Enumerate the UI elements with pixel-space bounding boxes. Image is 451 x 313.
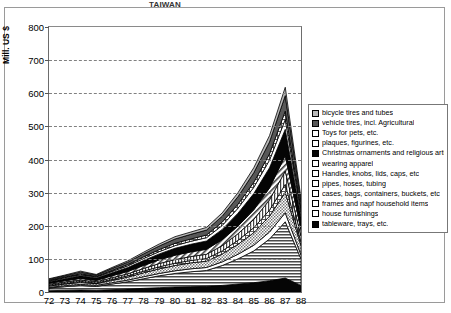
- legend-label: Christmas ornaments and religious articl…: [322, 149, 444, 157]
- plot-area: 0100200300400500600700800 72737475767778…: [48, 26, 302, 293]
- x-tick-label: 75: [91, 296, 102, 306]
- legend-label: house furnishings: [322, 210, 378, 218]
- legend-label: Handles, knobs, lids, caps, etc: [322, 170, 419, 178]
- legend-item: Toys for pets, etc.: [312, 128, 444, 138]
- legend-label: pipes, hoses, tubing: [322, 180, 386, 188]
- legend-item: frames and napf household items: [312, 199, 444, 209]
- x-tick-label: 87: [280, 296, 291, 306]
- gridline: [49, 60, 301, 61]
- x-tick-label: 74: [75, 296, 86, 306]
- legend-swatch: [312, 140, 319, 147]
- y-tick-label: 100: [28, 254, 44, 263]
- legend-swatch: [312, 170, 319, 177]
- legend-item: vehicle tires, incl. Agricultural: [312, 118, 444, 128]
- gridline: [49, 226, 301, 227]
- legend: bicycle tires and tubesvehicle tires, in…: [308, 104, 448, 233]
- legend-item: Christmas ornaments and religious articl…: [312, 148, 444, 158]
- legend-item: tableware, trays, etc.: [312, 219, 444, 229]
- legend-swatch: [312, 120, 319, 127]
- legend-swatch: [312, 190, 319, 197]
- x-tick-label: 72: [44, 296, 55, 306]
- legend-label: cases, bags, containers, buckets, etc: [322, 190, 440, 198]
- x-tick-label: 82: [201, 296, 212, 306]
- legend-swatch: [312, 130, 319, 137]
- y-tick-label: 200: [28, 221, 44, 230]
- y-tick-label: 700: [28, 56, 44, 65]
- x-tick-label: 77: [122, 296, 133, 306]
- y-tick-label: 300: [28, 188, 44, 197]
- legend-label: plaques, figurines, etc.: [322, 139, 394, 147]
- figure-frame: TAIWAN Mill. US $: [4, 7, 445, 303]
- chart-page: TAIWAN Mill. US $: [0, 0, 451, 313]
- y-tick-label: 800: [28, 23, 44, 32]
- legend-swatch: [312, 200, 319, 207]
- x-tick-label: 76: [107, 296, 118, 306]
- y-axis-label-text: Mill. US $: [1, 10, 11, 80]
- legend-swatch: [312, 110, 319, 117]
- legend-label: bicycle tires and tubes: [322, 109, 393, 117]
- legend-swatch: [312, 180, 319, 187]
- gridline: [49, 193, 301, 194]
- legend-swatch: [312, 210, 319, 217]
- legend-swatch: [312, 150, 319, 157]
- legend-item: bicycle tires and tubes: [312, 108, 444, 118]
- chart-title: TAIWAN: [5, 1, 325, 8]
- gridline: [49, 126, 301, 127]
- y-axis-label: Mill. US $: [1, 0, 13, 18]
- y-tick-label: 600: [28, 89, 44, 98]
- legend-label: wearing apparel: [322, 160, 373, 168]
- y-tick-mark: [45, 292, 49, 293]
- gridline: [49, 259, 301, 260]
- legend-item: plaques, figurines, etc.: [312, 138, 444, 148]
- legend-swatch: [312, 221, 319, 228]
- gridline: [49, 93, 301, 94]
- legend-item: house furnishings: [312, 209, 444, 219]
- x-tick-label: 81: [185, 296, 196, 306]
- y-tick-label: 400: [28, 155, 44, 164]
- legend-item: cases, bags, containers, buckets, etc: [312, 189, 444, 199]
- x-tick-label: 80: [170, 296, 181, 306]
- x-tick-label: 78: [138, 296, 149, 306]
- legend-label: tableware, trays, etc.: [322, 220, 388, 228]
- x-tick-label: 84: [233, 296, 244, 306]
- legend-swatch: [312, 160, 319, 167]
- x-tick-label: 85: [248, 296, 259, 306]
- legend-item: wearing apparel: [312, 158, 444, 168]
- legend-item: pipes, hoses, tubing: [312, 179, 444, 189]
- y-tick-mark: [45, 27, 49, 28]
- legend-item: Handles, knobs, lids, caps, etc: [312, 169, 444, 179]
- y-tick-label: 500: [28, 122, 44, 131]
- gridline: [49, 160, 301, 161]
- legend-label: Toys for pets, etc.: [322, 129, 378, 137]
- x-tick-label: 86: [264, 296, 275, 306]
- x-tick-label: 83: [217, 296, 228, 306]
- x-tick-label: 88: [296, 296, 307, 306]
- x-tick-label: 73: [59, 296, 70, 306]
- x-tick-label: 79: [154, 296, 165, 306]
- legend-label: frames and napf household items: [322, 200, 428, 208]
- legend-label: vehicle tires, incl. Agricultural: [322, 119, 414, 127]
